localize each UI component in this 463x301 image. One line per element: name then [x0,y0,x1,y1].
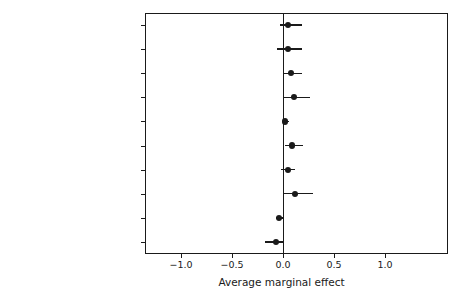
y-axis-tick [141,170,145,171]
x-axis-tick [385,254,386,258]
x-axis-tick-label: 0.0 [275,259,290,270]
x-axis-tick-label: −0.5 [220,259,243,270]
y-axis-tick [141,49,145,50]
x-axis-tick [334,254,335,258]
y-axis-tick [141,146,145,147]
x-axis-tick [181,254,182,258]
estimate-point-marker [282,118,288,124]
x-axis-title: Average marginal effect [0,276,463,288]
y-axis-tick [141,97,145,98]
y-axis-tick [141,25,145,26]
y-axis-tick [141,121,145,122]
y-axis-tick [141,73,145,74]
y-axis-tick [141,242,145,243]
estimate-point-marker [289,142,295,148]
x-axis-tick [232,254,233,258]
y-axis-tick [141,194,145,195]
coefficient-plot-figure: LER below parity (1800–1917)LER below pa… [0,0,463,301]
x-axis-tick-label: 1.0 [377,259,392,270]
estimate-point-marker [285,167,291,173]
x-axis-tick-label: 0.5 [326,259,341,270]
estimate-point-marker [276,215,282,221]
x-axis-tick [283,254,284,258]
y-axis-tick [141,218,145,219]
x-axis-tick-label: −1.0 [169,259,192,270]
confidence-interval-line [280,24,302,25]
x-axis-title-text: Average marginal effect [218,276,344,288]
estimate-point-marker [273,239,279,245]
